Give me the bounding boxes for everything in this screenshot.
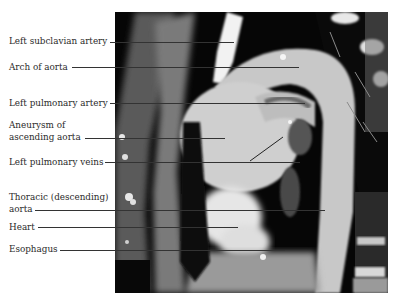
label-thoracic-aorta-line1: Thoracic (descending): [9, 192, 109, 203]
label-left-pulmonary-veins: Left pulmonary veins: [9, 157, 103, 168]
label-left-subclavian-artery: Left subclavian artery: [9, 36, 107, 47]
leader-left-subclavian-artery: [110, 42, 234, 43]
leader-esophagus: [60, 250, 285, 251]
label-aneurysm-line1: Aneurysm of: [9, 120, 65, 131]
leader-left-pulmonary-veins: [105, 162, 300, 163]
leader-arch-of-aorta: [72, 67, 299, 68]
label-heart: Heart: [9, 222, 35, 233]
label-esophagus: Esophagus: [9, 244, 58, 255]
leader-thoracic-aorta: [35, 210, 325, 211]
label-arch-of-aorta: Arch of aorta: [9, 62, 68, 73]
leader-left-pulmonary-artery: [110, 103, 305, 104]
label-left-pulmonary-artery: Left pulmonary artery: [9, 98, 108, 109]
leader-heart: [38, 227, 238, 228]
label-thoracic-aorta-line2: aorta: [9, 204, 33, 215]
label-aneurysm-line2: ascending aorta: [9, 132, 81, 143]
leader-aneurysm: [85, 138, 225, 139]
